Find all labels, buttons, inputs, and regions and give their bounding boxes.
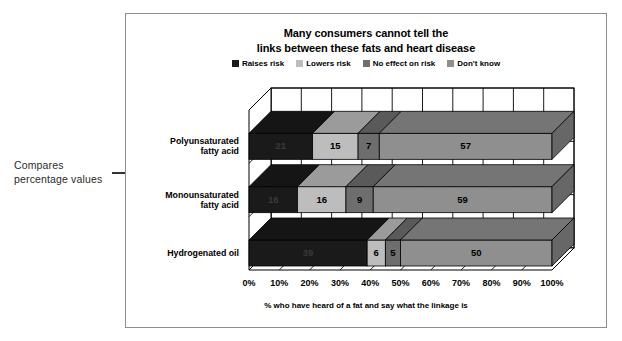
legend-item-no-effect-on-risk: No effect on risk [363, 59, 436, 68]
chart-svg: 21157571616959396550Polyunsaturatedfatty… [137, 74, 597, 294]
category-label: Monounsaturated [165, 190, 239, 200]
chart-title-line-1: Many consumers cannot tell the [126, 26, 606, 41]
category-label: Polyunsaturated [170, 136, 239, 146]
x-tick-label: 100% [540, 278, 563, 288]
bar-value-label: 16 [316, 194, 327, 205]
bar-value-label: 16 [268, 194, 279, 205]
stacked-bar-chart-plot: 21157571616959396550Polyunsaturatedfatty… [137, 74, 597, 294]
x-tick-label: 90% [513, 278, 531, 288]
legend-swatch-icon [296, 60, 303, 67]
x-axis-title: % who have heard of a fat and say what t… [126, 301, 606, 310]
legend-swatch-icon [447, 60, 454, 67]
chart-title: Many consumers cannot tell the links bet… [126, 26, 606, 55]
x-tick-label: 50% [391, 278, 409, 288]
legend-item-dont-know: Don't know [447, 59, 500, 68]
legend-label: Don't know [457, 59, 500, 68]
legend-label: Lowers risk [306, 59, 350, 68]
x-tick-label: 60% [422, 278, 440, 288]
bar-value-label: 50 [471, 247, 482, 258]
x-tick-label: 0% [242, 278, 255, 288]
legend-label: Raises risk [242, 59, 284, 68]
annotation-line-2: percentage values [14, 172, 119, 186]
chart-title-line-2: links between these fats and heart disea… [126, 41, 606, 56]
legend-item-lowers-risk: Lowers risk [296, 59, 350, 68]
x-tick-label: 40% [361, 278, 379, 288]
bar-value-label: 6 [374, 247, 379, 258]
x-tick-label: 80% [482, 278, 500, 288]
legend-item-raises-risk: Raises risk [232, 59, 284, 68]
legend-swatch-icon [232, 60, 239, 67]
category-label: fatty acid [200, 200, 239, 210]
legend-swatch-icon [363, 60, 370, 67]
chart-legend: Raises risk Lowers risk No effect on ris… [126, 59, 606, 68]
category-label: fatty acid [200, 146, 239, 156]
bar-value-label: 9 [357, 194, 362, 205]
bar-value-label: 21 [276, 140, 287, 151]
chart-frame: Many consumers cannot tell the links bet… [125, 13, 607, 328]
legend-label: No effect on risk [373, 59, 436, 68]
bar-value-label: 7 [366, 140, 371, 151]
bar-value-label: 57 [460, 140, 471, 151]
annotation-line-1: Compares [14, 158, 119, 172]
annotation-text: Compares percentage values [14, 158, 119, 186]
x-tick-label: 70% [452, 278, 470, 288]
bar-value-label: 15 [330, 140, 341, 151]
category-label: Hydrogenated oil [167, 248, 239, 258]
bar-value-label: 59 [457, 194, 468, 205]
x-tick-label: 20% [301, 278, 319, 288]
bar-value-label: 5 [390, 247, 396, 258]
x-tick-label: 10% [270, 278, 288, 288]
x-tick-label: 30% [331, 278, 349, 288]
bar-value-label: 39 [303, 247, 314, 258]
